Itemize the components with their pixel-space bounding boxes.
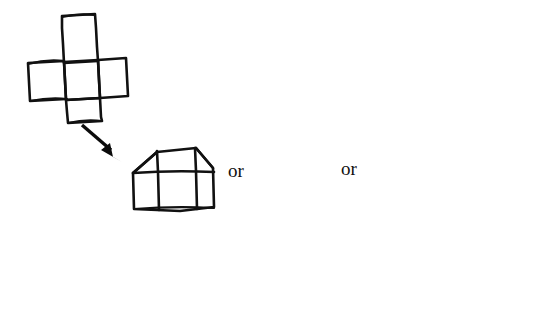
stage1-roof-right	[196, 148, 213, 168]
cube-net-cross	[28, 14, 128, 123]
stage1-roof-left	[133, 152, 157, 173]
net-square-bottom	[66, 98, 102, 123]
stage1-outline	[133, 148, 214, 211]
net-square-center	[64, 60, 100, 100]
figure-canvas: or or	[0, 0, 550, 314]
net-square-right	[98, 58, 128, 98]
or-separator-2: or	[341, 159, 357, 178]
stage1-fold-vertical-right	[195, 148, 197, 209]
folding-stage-1	[133, 148, 214, 211]
arrow-net-to-stage1	[82, 125, 122, 162]
stage1-fold-vertical-left	[157, 151, 159, 210]
stage1-fold-horizontal	[133, 171, 214, 173]
net-square-top	[62, 14, 98, 63]
cube-folding-drawing	[0, 0, 550, 314]
or-separator-1: or	[228, 161, 244, 180]
net-square-left	[28, 61, 66, 101]
